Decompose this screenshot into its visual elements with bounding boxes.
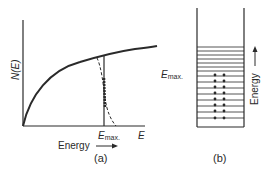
electrons — [214, 74, 226, 120]
energy-label-a: Energy — [58, 140, 90, 151]
panel-a: N(E) Emax. E Energy (a) — [10, 20, 157, 164]
energy-label-b: Energy — [249, 73, 260, 105]
caption-a: (a) — [94, 152, 107, 164]
energy-levels — [197, 47, 244, 118]
y-axis-label: N(E) — [10, 59, 21, 80]
density-of-states-curve — [23, 46, 157, 126]
panel-b: Emax. Energy (b) — [161, 8, 260, 164]
diagram: N(E) Emax. E Energy (a) — [0, 0, 268, 172]
emax-label-a: Emax. — [98, 130, 120, 141]
arrowhead-icon — [112, 144, 118, 149]
x-axis-end-label: E — [138, 130, 145, 141]
fermi-tail-dashed — [97, 58, 116, 126]
emax-label-b: Emax. — [161, 69, 183, 80]
caption-b: (b) — [213, 152, 226, 164]
arrowhead-up-icon — [253, 46, 258, 52]
